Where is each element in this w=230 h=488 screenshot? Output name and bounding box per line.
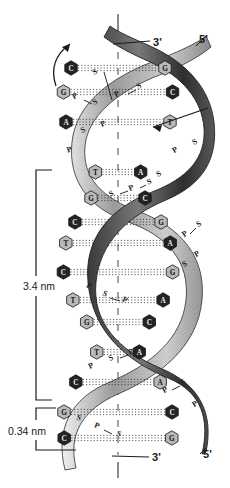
base-letter: T xyxy=(93,169,98,177)
base-letter: A xyxy=(138,169,144,177)
nucleotide-base-c-left: C xyxy=(69,215,81,229)
dna-helix-canvas: CGGCATTAGCCGTACGTAGCTACAGCCG SPSPSSPPPSS… xyxy=(0,0,230,488)
nucleotide-base-g-left: G xyxy=(85,191,97,205)
nucleotide-base-c-left: C xyxy=(57,265,69,279)
base-letter: A xyxy=(137,349,143,357)
nucleotide-base-g-right: G xyxy=(155,215,167,229)
nucleotide-base-c-right: C xyxy=(143,315,155,329)
nucleotide-base-g-right: G xyxy=(159,61,171,75)
base-letter: G xyxy=(170,269,176,277)
base-letter: G xyxy=(84,319,90,327)
base-letter: G xyxy=(162,65,168,73)
nucleotide-base-t-left: T xyxy=(89,165,101,179)
nucleotide-base-c-left: C xyxy=(58,431,70,445)
base-letter: C xyxy=(68,65,73,73)
nucleotide-base-g-left: G xyxy=(80,315,92,329)
base-letter: T xyxy=(168,119,173,127)
base-letter: T xyxy=(70,297,75,305)
base-letter: C xyxy=(170,89,175,97)
base-letter: T xyxy=(94,349,99,357)
base-letter: G xyxy=(169,435,175,443)
nucleotide-base-g-right: G xyxy=(166,265,178,279)
measurement-label-helix-turn: 3.4 nm xyxy=(23,280,55,292)
end-label-top-left: 3' xyxy=(153,36,162,48)
dna-helix-figure: CGGCATTAGCCGTACGTAGCTACAGCCG SPSPSSPPPSS… xyxy=(0,0,230,488)
nucleotide-base-t-left: T xyxy=(67,293,79,307)
nucleotide-base-c-right: C xyxy=(139,191,151,205)
nucleotide-base-a-right: A xyxy=(134,165,146,179)
measurement-label-base-rise: 0.34 nm xyxy=(8,425,46,437)
nucleotide-base-g-right: G xyxy=(166,431,178,445)
base-letter: G xyxy=(61,89,67,97)
nucleotide-base-c-left: C xyxy=(70,375,82,389)
base-letter: C xyxy=(61,269,66,277)
base-letter: G xyxy=(61,409,67,417)
nucleotide-base-c-right: C xyxy=(166,405,178,419)
base-letter: C xyxy=(72,219,77,227)
nucleotide-base-c-left: C xyxy=(65,61,77,75)
base-letter: G xyxy=(158,219,164,227)
nucleotide-base-t-left: T xyxy=(91,345,103,359)
base-letter: C xyxy=(62,435,67,443)
base-letter: T xyxy=(63,240,68,248)
end-label-bottom-left: 3' xyxy=(152,451,161,463)
nucleotide-base-t-left: T xyxy=(60,236,72,250)
nucleotide-base-g-left: G xyxy=(58,405,70,419)
base-letter: A xyxy=(161,297,167,305)
base-letter: C xyxy=(169,409,174,417)
nucleotide-base-a-right: A xyxy=(157,293,169,307)
nucleotide-base-a-left: A xyxy=(60,115,72,129)
nucleotide-base-g-left: G xyxy=(57,85,69,99)
base-letter: A xyxy=(63,119,69,127)
nucleotide-base-c-right: C xyxy=(166,85,178,99)
figure-background xyxy=(0,0,230,488)
base-letter: C xyxy=(147,319,152,327)
base-letter: G xyxy=(88,195,94,203)
base-letter: C xyxy=(73,379,78,387)
base-letter: C xyxy=(142,195,147,203)
nucleotide-base-a-right: A xyxy=(133,345,145,359)
